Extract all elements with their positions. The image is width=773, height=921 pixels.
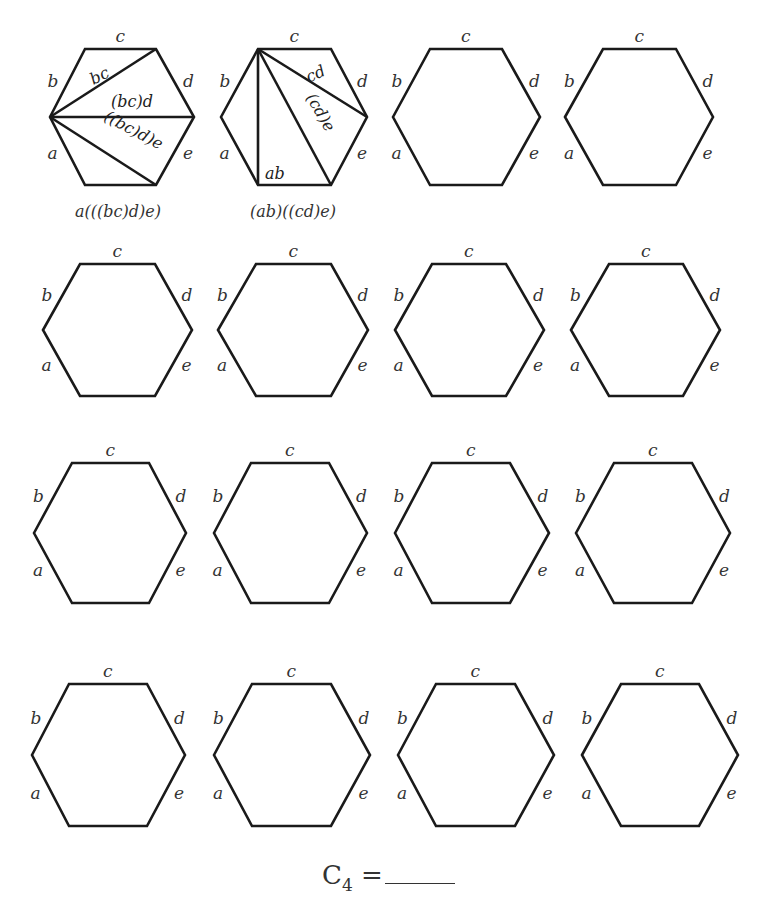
edge-label-c: c xyxy=(464,241,474,261)
inner-label: ((bc)d)e xyxy=(101,107,166,154)
hexagon-r4c1: abcde xyxy=(31,661,186,826)
edge-label-a: a xyxy=(575,560,585,580)
edge-label-b: b xyxy=(217,285,228,305)
hexagon-outline xyxy=(565,49,713,185)
edge-label-e: e xyxy=(176,560,186,580)
edge-label-d: d xyxy=(183,71,194,91)
edge-label-b: b xyxy=(48,71,59,91)
edge-label-c: c xyxy=(103,661,113,681)
edge-label-c: c xyxy=(466,440,476,460)
edge-label-d: d xyxy=(533,285,544,305)
edge-label-e: e xyxy=(703,143,713,163)
triangulation-caption: a(((bc)d)e) xyxy=(75,202,161,221)
hexagon-r3c2: abcde xyxy=(213,440,368,603)
edge-label-a: a xyxy=(394,355,404,375)
hexagon-outline xyxy=(34,463,186,603)
inner-label: cd xyxy=(303,61,328,86)
hexagon-outline xyxy=(214,684,370,826)
edge-label-e: e xyxy=(719,560,729,580)
hexagon-outline xyxy=(32,684,185,826)
edge-label-b: b xyxy=(394,486,405,506)
edge-label-b: b xyxy=(213,708,224,728)
answer-blank[interactable] xyxy=(385,861,455,884)
hexagon-r4c2: abcde xyxy=(213,661,370,826)
edge-label-b: b xyxy=(582,708,593,728)
edge-label-d: d xyxy=(727,708,738,728)
edge-label-c: c xyxy=(287,661,297,681)
hexagon-outline xyxy=(395,264,544,396)
edge-label-e: e xyxy=(538,560,548,580)
equals-sign: = xyxy=(353,860,383,890)
hexagon-r2c2: abcde xyxy=(217,241,369,396)
edge-label-c: c xyxy=(635,26,645,46)
edge-label-c: c xyxy=(471,661,481,681)
edge-label-e: e xyxy=(174,783,184,803)
edge-label-a: a xyxy=(213,560,223,580)
edge-label-d: d xyxy=(182,285,193,305)
catalan-symbol: C xyxy=(322,860,342,890)
edge-label-c: c xyxy=(285,440,295,460)
hexagon-outline xyxy=(218,264,368,396)
edge-label-b: b xyxy=(31,708,42,728)
edge-label-a: a xyxy=(217,355,227,375)
catalan-answer-line: C4 = xyxy=(322,860,455,890)
edge-label-e: e xyxy=(533,355,543,375)
hexagon-r2c1: abcde xyxy=(42,241,193,396)
edge-label-a: a xyxy=(564,143,574,163)
hexagon-r2c4: abcde xyxy=(570,241,721,396)
edge-label-c: c xyxy=(116,26,126,46)
edge-label-d: d xyxy=(703,71,714,91)
edge-label-b: b xyxy=(213,486,224,506)
edge-label-e: e xyxy=(543,783,553,803)
hexagon-outline xyxy=(395,463,549,603)
hexagon-outline xyxy=(582,684,738,826)
hexagon-r3c4: abcde xyxy=(575,440,730,603)
edge-label-d: d xyxy=(543,708,554,728)
edge-label-a: a xyxy=(397,783,407,803)
hexagon-r3c1: abcde xyxy=(33,440,187,603)
edge-label-b: b xyxy=(394,285,405,305)
edge-label-a: a xyxy=(213,783,223,803)
edge-label-d: d xyxy=(529,71,540,91)
edge-label-e: e xyxy=(356,560,366,580)
edge-label-a: a xyxy=(220,143,230,163)
hexagon-r1c4: abcde xyxy=(564,26,714,185)
hexagon-outline xyxy=(576,463,730,603)
edge-label-d: d xyxy=(719,486,730,506)
inner-label: ab xyxy=(265,164,285,183)
hexagon-outline xyxy=(393,49,540,185)
edge-label-e: e xyxy=(710,355,720,375)
hexagon-r1c3: abcde xyxy=(392,26,541,185)
edge-label-d: d xyxy=(174,708,185,728)
hexagon-triangulation-worksheet: abcdebc(bc)d((bc)d)ea(((bc)d)e)abcdecd(c… xyxy=(0,0,773,921)
edge-label-b: b xyxy=(33,486,44,506)
hexagon-outline xyxy=(398,684,554,826)
edge-label-a: a xyxy=(48,143,58,163)
edge-label-e: e xyxy=(182,355,192,375)
hexagon-outline xyxy=(571,264,720,396)
edge-label-d: d xyxy=(176,486,187,506)
edge-label-c: c xyxy=(461,26,471,46)
edge-label-e: e xyxy=(357,143,367,163)
edge-label-a: a xyxy=(570,355,580,375)
hexagon-r4c3: abcde xyxy=(397,661,554,826)
edge-label-b: b xyxy=(397,708,408,728)
edge-label-b: b xyxy=(220,71,231,91)
edge-label-a: a xyxy=(582,783,592,803)
triangulation-caption: (ab)((cd)e) xyxy=(250,202,336,221)
edge-label-d: d xyxy=(357,71,368,91)
edge-label-b: b xyxy=(575,486,586,506)
edge-label-b: b xyxy=(392,71,403,91)
edge-label-c: c xyxy=(641,241,651,261)
edge-label-d: d xyxy=(356,486,367,506)
edge-label-c: c xyxy=(113,241,123,261)
edge-label-c: c xyxy=(106,440,116,460)
edge-label-b: b xyxy=(42,285,53,305)
edge-label-e: e xyxy=(727,783,737,803)
edge-label-c: c xyxy=(648,440,658,460)
edge-label-d: d xyxy=(358,285,369,305)
edge-label-d: d xyxy=(710,285,721,305)
edge-label-d: d xyxy=(538,486,549,506)
edge-label-e: e xyxy=(183,143,193,163)
hexagon-outline xyxy=(214,463,367,603)
